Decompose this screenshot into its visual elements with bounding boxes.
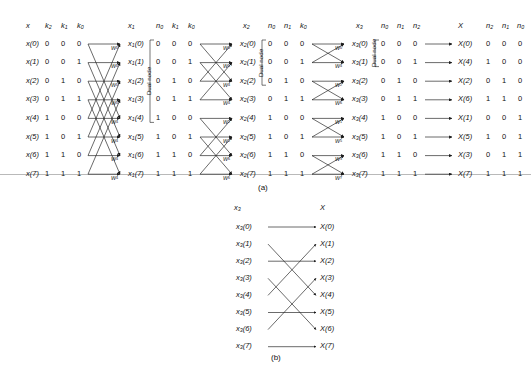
panel-b-left-node-2: x3(2) xyxy=(236,257,252,265)
panel-b-right-node-5: X(5) xyxy=(320,308,334,316)
panel-b-caption: (b) xyxy=(271,354,281,362)
panel-b-right-node-1: X(1) xyxy=(320,240,334,248)
panel-b-right-node-7: X(7) xyxy=(320,342,334,350)
panel-b-flowgraph xyxy=(0,0,531,372)
panel-b-right-node-3: X(3) xyxy=(320,274,334,282)
panel-b-header-x3: x3 xyxy=(234,204,241,212)
panel-b-left-node-7: x3(7) xyxy=(236,342,252,350)
panel-b-left-node-4: x3(4) xyxy=(236,291,252,299)
panel-b-right-node-2: X(2) xyxy=(320,257,334,265)
fft-flowgraph-figure: x k2 k1 k0 x1 n0 k1 k0 x2 n0 n1 k0 x3 n0… xyxy=(0,0,531,372)
panel-b-left-node-6: x3(6) xyxy=(236,325,252,333)
panel-b-right-node-6: X(6) xyxy=(320,325,334,333)
panel-b-left-node-3: x3(3) xyxy=(236,274,252,282)
panel-b-left-node-1: x3(1) xyxy=(236,240,252,248)
panel-b-left-node-5: x3(5) xyxy=(236,308,252,316)
panel-b-right-node-0: X(0) xyxy=(320,223,334,231)
panel-b-right-node-4: X(4) xyxy=(320,291,334,299)
panel-b-header-X: X xyxy=(320,204,325,212)
panel-b-left-node-0: x3(0) xyxy=(236,223,252,231)
